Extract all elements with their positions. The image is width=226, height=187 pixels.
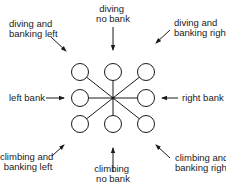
spoke-br: [113, 98, 139, 119]
diagram-canvas: diving no bank diving and banking left d…: [0, 0, 226, 187]
direction-circle-ml: [72, 90, 89, 107]
direction-circle-bc: [105, 116, 122, 133]
label-diving-no-bank: diving no bank: [96, 3, 130, 24]
arrow-climbing-banking-right: [156, 145, 170, 158]
spoke-tl: [87, 77, 113, 98]
direction-circle-tl: [72, 64, 89, 81]
direction-circle-bl: [72, 116, 89, 133]
label-diving-banking-right: diving and banking right: [174, 17, 226, 38]
hub-dot: [111, 96, 114, 99]
label-climbing-banking-right: climbing and banking right: [175, 152, 226, 173]
label-climbing-no-bank: climbing no bank: [94, 163, 132, 184]
direction-circle-mr: [138, 90, 155, 107]
direction-circle-tr: [138, 64, 155, 81]
direction-circle-br: [138, 116, 155, 133]
direction-circle-tc: [105, 64, 122, 81]
arrow-diving-banking-left: [51, 37, 66, 51]
spoke-bl: [87, 98, 113, 119]
label-climbing-banking-left: climbing and banking left: [0, 151, 56, 172]
arrow-diving-banking-right: [156, 30, 170, 43]
label-left-bank: left bank: [9, 92, 45, 103]
pointer-arrows: [46, 27, 178, 172]
label-right-bank: right bank: [182, 92, 224, 103]
joystick-direction-diagram: diving no bank diving and banking left d…: [0, 0, 226, 187]
spoke-tr: [113, 77, 139, 98]
label-diving-banking-left: diving and banking left: [9, 18, 58, 39]
